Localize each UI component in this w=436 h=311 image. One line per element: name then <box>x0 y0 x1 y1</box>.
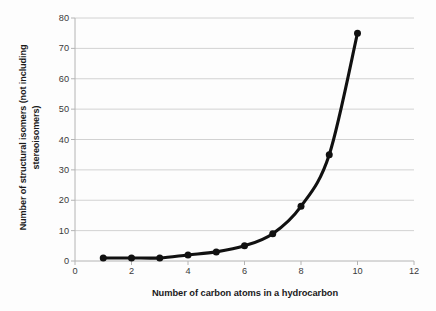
chart-figure: Number of structural isomers (not includ… <box>0 0 436 311</box>
plot-canvas <box>0 0 436 311</box>
data-point-marker <box>326 151 333 158</box>
data-point-marker <box>269 230 276 237</box>
data-point-marker <box>298 203 305 210</box>
x-tick-label: 4 <box>175 266 201 276</box>
data-point-marker <box>156 254 163 261</box>
data-point-marker <box>128 254 135 261</box>
x-axis-label: Number of carbon atoms in a hydrocarbon <box>75 288 415 298</box>
gridlines <box>75 18 414 231</box>
x-tick-label: 6 <box>232 266 258 276</box>
x-tick-label: 2 <box>119 266 145 276</box>
data-point-marker <box>241 242 248 249</box>
data-point-marker <box>213 248 220 255</box>
data-markers <box>100 30 361 262</box>
data-point-marker <box>185 251 192 258</box>
x-tick-label: 10 <box>345 266 371 276</box>
data-point-marker <box>100 254 107 261</box>
x-tick-label: 8 <box>288 266 314 276</box>
data-point-marker <box>354 30 361 37</box>
axis-ticks <box>71 18 414 265</box>
x-tick-label: 0 <box>62 266 88 276</box>
x-tick-label: 12 <box>401 266 427 276</box>
data-line <box>103 33 357 258</box>
